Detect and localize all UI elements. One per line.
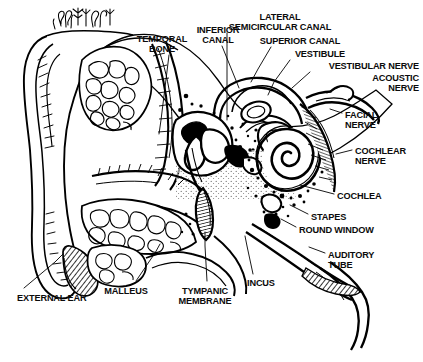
- label-vestibule: VESTIBULE: [295, 49, 345, 59]
- label-incus: INCUS: [247, 278, 275, 288]
- label-superior-canal: SUPERIOR CANAL: [260, 36, 341, 46]
- jaw-condyle-lower-left: [88, 245, 147, 287]
- stapes-footplate-oval-window: [262, 195, 282, 213]
- label-temporal-bone: TEMPORAL BONE: [137, 34, 187, 54]
- label-cochlear-nerve: COCHLEAR NERVE: [355, 146, 406, 166]
- label-external-ear: EXTERNAL EAR: [17, 293, 87, 303]
- label-cochlea: COCHLEA: [337, 191, 381, 201]
- label-auditory-tube: AUDITORY TUBE: [328, 250, 374, 270]
- label-malleus: MALLEUS: [104, 286, 147, 296]
- mastoid-air-cells: [79, 47, 151, 131]
- label-round-window: ROUND WINDOW: [299, 225, 374, 235]
- label-stapes: STAPES: [311, 212, 346, 222]
- label-facial-nerve: FACIAL NERVE: [345, 110, 377, 130]
- ear-anatomy-figure: TEMPORAL BONEINFERIOR CANALLATERAL SEMIC…: [0, 0, 423, 362]
- label-lateral-semicircular-canal: LATERAL SEMICIRCULAR CANAL: [229, 12, 331, 32]
- label-tympanic-membrane: TYMPANIC MEMBRANE: [179, 286, 232, 306]
- label-vestibular-nerve: VESTIBULAR NERVE: [329, 61, 419, 71]
- label-acoustic-nerve: ACOUSTIC NERVE: [372, 73, 419, 93]
- anatomical-illustration: [0, 0, 423, 362]
